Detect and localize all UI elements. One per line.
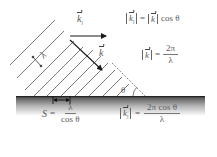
eq3-denominator: cos θ: [58, 114, 83, 124]
eq1-subscript: ||: [133, 19, 134, 24]
abs-k: k: [148, 14, 158, 24]
eq1-cos-theta: cos θ: [161, 14, 180, 23]
theta-arc: [133, 87, 137, 96]
eq1-equals: =: [140, 14, 145, 23]
eq4-fraction: 2π cos θ λ: [144, 103, 180, 124]
diagram-graphics: [0, 0, 217, 157]
k-parallel-label: k||: [77, 14, 82, 25]
eq4-subscript: ||: [127, 114, 128, 119]
eq4-equals: =: [135, 109, 140, 118]
eq2-k-symbol: k: [145, 51, 149, 60]
diagram-stage: k|| k λ θ k|| = k cos θ k = 2π λ S = λ c…: [0, 0, 217, 157]
theta-label: θ: [121, 86, 125, 95]
eq2-denominator: λ: [165, 55, 175, 65]
k-parallel-subscript: ||: [81, 20, 82, 25]
eq3-fraction: λ cos θ: [58, 103, 83, 124]
k-vector-symbol: k: [99, 48, 103, 58]
wave-boundary-dashed: [112, 63, 145, 96]
eq4-denominator: λ: [157, 114, 167, 124]
eq1-k-symbol: k: [129, 14, 133, 23]
equation-k-parallel-cos: k|| = k cos θ: [126, 13, 180, 24]
eq2-equals: =: [155, 50, 160, 59]
eq3-S: S: [42, 109, 47, 119]
eq3-numerator: λ: [65, 103, 75, 114]
k-vector-label: k: [99, 48, 103, 58]
equation-k-parallel-result: k|| = 2π cos θ λ: [120, 103, 180, 124]
abs-k-eq2: k: [142, 50, 152, 60]
eq1-k-rhs-symbol: k: [151, 15, 155, 24]
eq4-numerator: 2π cos θ: [144, 103, 180, 114]
eq3-equals: =: [50, 109, 55, 118]
wavefronts: [10, 20, 129, 96]
abs-k-parallel-eq4: k||: [120, 108, 131, 119]
eq2-fraction: 2π λ: [163, 44, 178, 65]
eq4-k-symbol: k: [123, 109, 127, 118]
abs-k-parallel: k||: [126, 13, 137, 24]
equation-k-magnitude: k = 2π λ: [142, 44, 178, 65]
equation-surface-spacing: S = λ cos θ: [42, 103, 83, 124]
eq2-numerator: 2π: [163, 44, 178, 55]
k-parallel-symbol: k: [77, 14, 81, 24]
